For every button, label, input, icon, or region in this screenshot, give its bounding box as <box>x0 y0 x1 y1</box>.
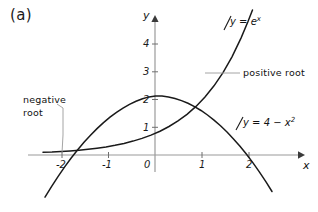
parabola-curve-label-base: y = 4 − x <box>243 117 291 128</box>
curve-parabola <box>45 96 272 197</box>
parabola-curve-label-exponent: 2 <box>291 116 295 124</box>
exponential-curve-label: y = ex <box>230 16 261 27</box>
x-axis-label: x <box>303 160 310 171</box>
exponential-curve-label-exponent: x <box>257 15 261 23</box>
y-tick-label-2: 2 <box>143 95 149 105</box>
parabola-curve-label: y = 4 − x2 <box>243 117 295 128</box>
exponential-curve-label-base: y = e <box>230 16 257 27</box>
y-tick-label-1: 1 <box>143 123 149 133</box>
x-tick-label--1: -1 <box>102 160 112 170</box>
y-tick-label-3: 3 <box>143 67 149 77</box>
parabola-label-leader <box>236 117 243 130</box>
y-axis-label: y <box>143 10 150 21</box>
negative-root-annotation-line2: root <box>23 108 66 118</box>
x-axis <box>28 151 305 158</box>
negative-root-annotation-line1: negative <box>23 94 66 105</box>
x-tick-label-1: 1 <box>199 160 205 170</box>
x-tick-label-2: 2 <box>246 160 252 170</box>
negative-root-annotation: negative root <box>23 95 66 117</box>
figure-panel-a: (a) y x -2 -1 0 1 2 1 2 3 4 negative roo… <box>0 0 318 212</box>
x-tick-label--2: -2 <box>56 160 66 170</box>
positive-root-annotation: positive root <box>243 68 305 78</box>
y-tick-label-4: 4 <box>143 39 149 49</box>
y-axis <box>151 15 158 172</box>
panel-label: (a) <box>10 8 32 23</box>
x-tick-label-0: 0 <box>144 160 150 170</box>
